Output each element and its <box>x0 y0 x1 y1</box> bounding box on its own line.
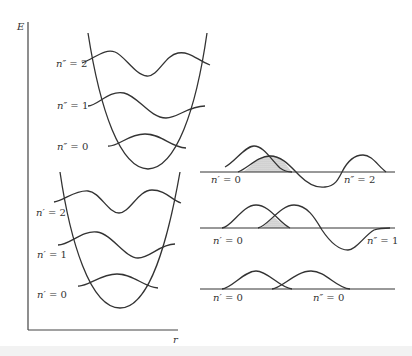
lower-well <box>54 172 181 308</box>
level-symbol: n′ <box>37 249 46 260</box>
level-label-lower-n1: n′ = 1 <box>37 250 67 260</box>
y-axis-label: E <box>17 22 24 32</box>
level-symbol: n″ <box>57 141 67 152</box>
level-label-upper-n2: n″ = 2 <box>56 59 87 69</box>
level-number: 0 <box>60 289 66 300</box>
level-number: 0 <box>82 141 88 152</box>
level-symbol: n″ <box>56 58 66 69</box>
level-number: 2 <box>59 207 65 218</box>
level-symbol: n″ <box>57 100 67 111</box>
level-number: 1 <box>60 249 66 260</box>
level-symbol: n′ <box>36 207 45 218</box>
level-label-upper-n1: n″ = 1 <box>57 101 88 111</box>
page-bottom-edge <box>0 346 412 356</box>
level-label-lower-n0: n′ = 0 <box>37 290 67 300</box>
overlap1-left-label: n′ = 0 <box>211 175 241 185</box>
level-label-upper-n0: n″ = 0 <box>57 142 88 152</box>
level-symbol: n′ <box>37 289 46 300</box>
overlap1-right-label: n″ = 2 <box>344 175 375 185</box>
upper-wavefunction-n1 <box>88 93 205 118</box>
level-number: 2 <box>81 58 87 69</box>
overlap-panel-n0-n0 <box>200 271 395 289</box>
overlap3-right-label: n″ = 0 <box>313 293 344 303</box>
overlap3-left-label: n′ = 0 <box>213 293 243 303</box>
axes <box>28 22 178 330</box>
level-label-lower-n2: n′ = 2 <box>36 208 66 218</box>
upper-wavefunction-n2 <box>82 51 210 76</box>
ground-wavefunction-n0 <box>222 271 292 289</box>
overlap-shade <box>243 155 292 172</box>
level-number: 1 <box>82 100 88 111</box>
overlap2-left-label: n′ = 0 <box>213 236 243 246</box>
overlap2-right-label: n″ = 1 <box>367 236 398 246</box>
x-axis-label: r <box>173 335 178 345</box>
lower-wavefunction-n2 <box>54 190 181 213</box>
upper-well <box>82 33 210 169</box>
upper-potential-curve <box>88 33 207 169</box>
